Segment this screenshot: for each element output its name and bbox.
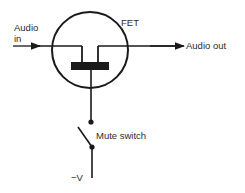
fet-mute-diagram: Audio in FET Audio out Mute switch −V: [0, 0, 245, 193]
diagram-svg: Audio in FET Audio out Mute switch −V: [0, 0, 245, 193]
mute-switch-blade: [78, 127, 92, 147]
fet-label: FET: [121, 17, 139, 28]
negative-voltage-label: −V: [71, 172, 84, 183]
switch-top-contact: [88, 119, 93, 124]
fet-symbol-circle: [52, 12, 128, 88]
audio-in-label-line2: in: [14, 33, 21, 44]
mute-switch-label: Mute switch: [96, 130, 146, 141]
fet-channel-bar: [71, 62, 109, 70]
audio-out-label: Audio out: [186, 40, 227, 51]
audio-in-label-line1: Audio: [14, 22, 38, 33]
